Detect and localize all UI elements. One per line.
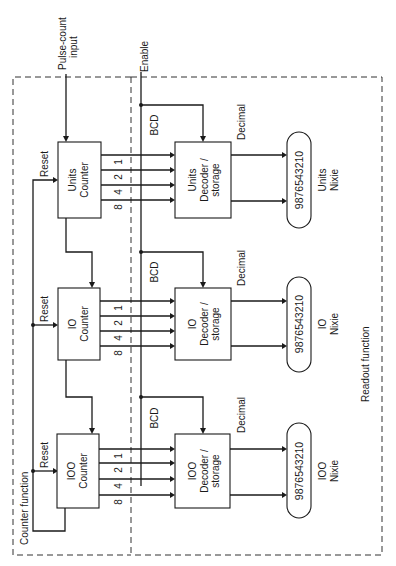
decimal-label: Decimal: [236, 250, 247, 286]
hundred-counter-label: IOO: [66, 462, 77, 481]
units-decimal-lines: Decimal: [231, 104, 287, 204]
stage-100: IOO Counter 1 2 4 8 BCD IOO Decoder / st…: [57, 397, 340, 518]
hundred-decoder-label: IOO: [187, 462, 198, 481]
units-decoder-label-3: storage: [210, 163, 221, 197]
bcd-label: BCD: [149, 407, 160, 428]
ten-nixie-label: IO: [317, 319, 328, 330]
hundred-nixie-label-2: Nixie: [329, 459, 340, 482]
reset-label-10: Reset: [39, 296, 50, 322]
hundred-decoder-label-2: Decoder /: [199, 449, 210, 493]
hundred-decoder-label-3: storage: [210, 454, 221, 488]
bit-1-label: 1: [113, 159, 124, 165]
bit-2-label: 2: [113, 467, 124, 473]
enable-label: Enable: [139, 40, 150, 72]
bit-8-label: 8: [113, 499, 124, 505]
bit-2-label: 2: [113, 320, 124, 326]
hundred-counter-label-2: Counter: [78, 453, 89, 489]
stage-10: IO Counter 1 2 4 8 BCD IO Decoder / stor…: [58, 250, 340, 372]
ten-decoder-label: IO: [187, 319, 198, 330]
pulse-count-label-line2: input: [68, 36, 79, 58]
ten-decoder-label-2: Decoder /: [199, 302, 210, 346]
units-decoder-label: Units: [187, 169, 198, 192]
hundred-bcd-lines: 1 2 4 8 BCD: [99, 407, 175, 504]
bcd-label: BCD: [149, 114, 160, 135]
ten-bcd-lines: 1 2 4 8 BCD: [100, 261, 175, 355]
hundred-nixie-label: IOO: [317, 462, 328, 481]
reset-label-100: Reset: [39, 442, 50, 468]
bit-1-label: 1: [113, 305, 124, 311]
hundred-nixie-digits: 9876543210: [293, 442, 305, 501]
ten-counter-label: IO: [67, 319, 78, 330]
units-counter-label: Units: [67, 169, 78, 192]
units-bcd-lines: 1 2 4 8 BCD: [101, 114, 175, 209]
pulse-count-input: Pulse-count input: [57, 17, 79, 142]
counter-readout-diagram: Counter function Readout function Pulse-…: [0, 0, 396, 566]
counter-function-label: Counter function: [19, 472, 30, 545]
hundred-decimal-lines: Decimal: [230, 397, 287, 498]
units-decoder-label-2: Decoder /: [199, 158, 210, 202]
reset-label-units: Reset: [39, 151, 50, 177]
decimal-label: Decimal: [236, 397, 247, 433]
bit-2-label: 2: [113, 174, 124, 180]
bit-4-label: 4: [113, 335, 124, 341]
ten-decoder-label-3: storage: [210, 307, 221, 341]
bit-4-label: 4: [113, 189, 124, 195]
ten-counter-label-2: Counter: [79, 306, 90, 342]
readout-function-label: Readout function: [360, 326, 371, 402]
units-counter-label-2: Counter: [79, 162, 90, 198]
units-nixie-digits: 9876543210: [293, 151, 305, 210]
stage-units: Units Counter 1 2 4 8 BCD Units Decoder …: [58, 104, 340, 228]
bit-4-label: 4: [113, 483, 124, 489]
units-nixie-label-2: Nixie: [329, 168, 340, 191]
ten-nixie-digits: 9876543210: [293, 295, 305, 354]
bit-8-label: 8: [113, 204, 124, 210]
ten-decimal-lines: Decimal: [231, 250, 287, 349]
bcd-label: BCD: [149, 261, 160, 282]
bit-1-label: 1: [113, 453, 124, 459]
bit-8-label: 8: [113, 350, 124, 356]
decimal-label: Decimal: [236, 104, 247, 140]
units-nixie-label: Units: [317, 169, 328, 192]
pulse-count-label: Pulse-count: [57, 17, 68, 70]
ten-nixie-label-2: Nixie: [329, 312, 340, 335]
